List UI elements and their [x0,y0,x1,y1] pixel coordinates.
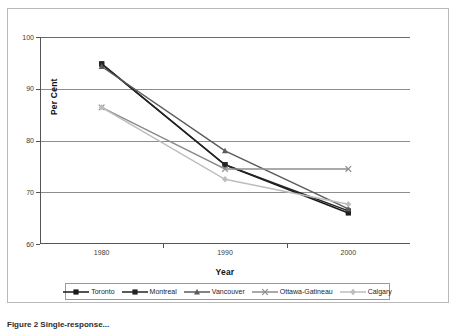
square-marker [74,289,79,294]
legend-label: Calgary [368,288,392,296]
plot-area: 10090807060 198019902000 Per Cent Year [40,11,410,244]
square-marker [122,287,148,297]
x-axis-tick-label: 2000 [328,249,368,257]
square-marker [132,289,137,294]
series-ottawa-gatineau [99,105,351,172]
legend-label: Montreal [150,288,177,296]
x-axis-tick-mark [163,244,164,248]
legend-label: Toronto [91,288,114,296]
legend-item-vancouver[interactable]: Vancouver [184,287,245,297]
y-axis-tick-label: 100 [4,34,34,41]
diamond-marker [340,287,366,297]
y-axis-tick-mark [36,244,40,245]
y-axis-tick-label: 80 [4,137,34,144]
cross-marker [252,287,278,297]
figure-container: 10090807060 198019902000 Per Cent Year T… [0,0,464,329]
x-axis-tick-mark [287,244,288,248]
x-axis-tick-label: 1980 [82,249,122,257]
chart-plot [40,37,410,244]
legend-item-montreal[interactable]: Montreal [122,287,177,297]
x-axis-tick-label: 1990 [205,249,245,257]
triangle-marker [184,287,210,297]
square-marker [63,287,89,297]
legend-item-calgary[interactable]: Calgary [340,287,392,297]
series-montreal [99,61,351,213]
triangle-marker [222,148,228,154]
diamond-marker [345,201,351,207]
chart-legend: TorontoMontrealVancouverOttawa-GatineauC… [65,283,390,300]
figure-caption: Figure 2 Single-response... [7,319,437,329]
y-axis-title: Per Cent [49,78,59,115]
diamond-marker [350,288,356,294]
legend-label: Ottawa-Gatineau [280,288,333,296]
series-vancouver [99,63,352,211]
legend-label: Vancouver [212,288,245,296]
x-axis-title: Year [40,267,410,277]
diamond-marker [222,176,228,182]
legend-item-ottawa-gatineau[interactable]: Ottawa-Gatineau [252,287,333,297]
y-axis-tick-label: 60 [4,241,34,248]
legend-item-toronto[interactable]: Toronto [63,287,114,297]
y-axis-tick-label: 90 [4,85,34,92]
y-axis-tick-label: 70 [4,189,34,196]
